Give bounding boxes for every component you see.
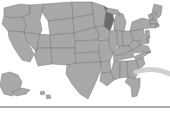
state-new-york[interactable]: [130, 18, 150, 31]
state-colorado[interactable]: [50, 33, 75, 48]
state-new-jersey[interactable]: [145, 30, 150, 38]
state-montana[interactable]: [42, 2, 73, 21]
state-oklahoma[interactable]: [75, 52, 101, 63]
state-wyoming[interactable]: [48, 18, 74, 35]
inset-hawaii-1[interactable]: [40, 91, 45, 95]
state-kansas[interactable]: [75, 40, 99, 53]
state-oregon[interactable]: [2, 16, 26, 32]
state-arizona[interactable]: [34, 48, 52, 66]
swoosh-arc-icon: [136, 69, 170, 74]
state-new-mexico[interactable]: [51, 48, 76, 65]
state-arkansas[interactable]: [101, 61, 111, 73]
state-rhode-island[interactable]: [156, 24, 159, 27]
state-massachusetts[interactable]: [150, 20, 158, 24]
state-alabama[interactable]: [120, 61, 128, 78]
state-connecticut[interactable]: [150, 24, 156, 28]
inset-hawaii-2[interactable]: [46, 95, 51, 99]
us-map-svg: [0, 0, 170, 118]
map-graphic-container: [0, 0, 170, 118]
horizontal-rule: [0, 106, 170, 108]
state-florida[interactable]: [125, 77, 140, 97]
state-texas[interactable]: [66, 62, 101, 99]
